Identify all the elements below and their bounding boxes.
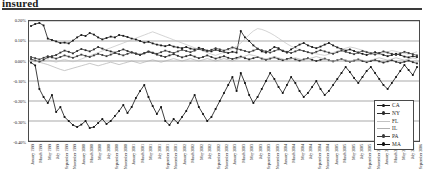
- y-tick-label: -0.10%: [0, 79, 26, 84]
- legend-label: NY: [392, 111, 400, 116]
- x-tick-label: November 2002: [224, 144, 229, 169]
- x-tick-label: March 1999: [38, 144, 43, 163]
- plot-area: [28, 20, 420, 142]
- x-tick-label: September 2000: [114, 144, 119, 169]
- y-tick-label: 0.20%: [0, 18, 26, 23]
- legend-swatch-icon: [377, 102, 390, 109]
- x-tick-label: September 2005: [367, 144, 372, 169]
- x-tick-label: May 2000: [97, 144, 102, 160]
- x-tick-label: July 2002: [207, 144, 212, 159]
- legend-swatch-icon: [377, 118, 390, 125]
- x-tick-label: September 2006: [418, 144, 423, 169]
- x-tick-label: July 2000: [106, 144, 111, 159]
- x-tick-label: May 2004: [300, 144, 305, 160]
- header-rule: [2, 8, 422, 10]
- x-tick-label: March 2001: [140, 144, 145, 163]
- x-tick-label: May 1999: [47, 144, 52, 160]
- y-tick-label: -0.20%: [0, 99, 26, 104]
- x-tick-label: January 2004: [283, 144, 288, 165]
- x-tick-label: November 1999: [72, 144, 77, 169]
- x-tick-label: July 1999: [55, 144, 60, 159]
- x-tick-label: January 2003: [232, 144, 237, 165]
- x-tick-label: July 2003: [258, 144, 263, 159]
- x-tick-label: March 2004: [291, 144, 296, 163]
- y-tick-label: 0.10%: [0, 38, 26, 43]
- x-tick-label: September 1999: [64, 144, 69, 169]
- x-tick-label: March 2000: [89, 144, 94, 163]
- y-tick-label: -0.40%: [0, 140, 26, 145]
- legend-swatch-icon: [377, 141, 390, 148]
- legend-swatch-icon: [377, 125, 390, 132]
- x-tick-label: May 2005: [351, 144, 356, 160]
- chart-legend[interactable]: CANYFLILPAMA: [374, 100, 414, 150]
- x-tick-label: March 2002: [190, 144, 195, 163]
- x-tick-label: September 2004: [317, 144, 322, 169]
- x-tick-label: January 2002: [182, 144, 187, 165]
- legend-label: FL: [392, 119, 399, 124]
- legend-item-il[interactable]: IL: [377, 125, 411, 133]
- x-tick-label: January 2000: [81, 144, 86, 165]
- x-tick-label: May 2001: [148, 144, 153, 160]
- y-tick-label: -0.30%: [0, 119, 26, 124]
- x-tick-label: January 2001: [131, 144, 136, 165]
- legend-label: CA: [392, 103, 400, 108]
- legend-label: PA: [392, 134, 399, 139]
- x-tick-label: September 2003: [266, 144, 271, 169]
- x-tick-label: May 2002: [199, 144, 204, 160]
- legend-item-fl[interactable]: FL: [377, 117, 411, 125]
- legend-item-ca[interactable]: CA: [377, 102, 411, 110]
- x-tick-label: January 2005: [334, 144, 339, 165]
- x-tick-label: March 2003: [241, 144, 246, 163]
- x-axis-ticks: January 1999March 1999May 1999July 1999S…: [28, 142, 420, 194]
- x-tick-label: July 2005: [359, 144, 364, 159]
- legend-item-pa[interactable]: PA: [377, 133, 411, 141]
- y-tick-label: 0.00%: [0, 58, 26, 63]
- legend-item-ma[interactable]: MA: [377, 140, 411, 148]
- legend-swatch-icon: [377, 110, 390, 117]
- legend-label: IL: [392, 126, 397, 131]
- chart-figure: 0.20%0.10%0.00%-0.10%-0.20%-0.30%-0.40% …: [0, 14, 424, 194]
- x-tick-label: November 2004: [325, 144, 330, 169]
- legend-label: MA: [392, 142, 401, 147]
- figure-page: insured 0.20%0.10%0.00%-0.10%-0.20%-0.30…: [0, 0, 424, 194]
- x-tick-label: July 2004: [308, 144, 313, 159]
- x-tick-label: November 2001: [173, 144, 178, 169]
- x-tick-label: May 2003: [249, 144, 254, 160]
- x-tick-label: July 2001: [157, 144, 162, 159]
- x-tick-label: September 2002: [216, 144, 221, 169]
- legend-swatch-icon: [377, 133, 390, 140]
- x-tick-label: November 2000: [123, 144, 128, 169]
- legend-item-ny[interactable]: NY: [377, 110, 411, 118]
- x-tick-label: November 2003: [275, 144, 280, 169]
- x-tick-label: March 2005: [342, 144, 347, 163]
- x-tick-label: January 1999: [30, 144, 35, 165]
- series-lines: [29, 21, 419, 141]
- x-tick-label: September 2001: [165, 144, 170, 169]
